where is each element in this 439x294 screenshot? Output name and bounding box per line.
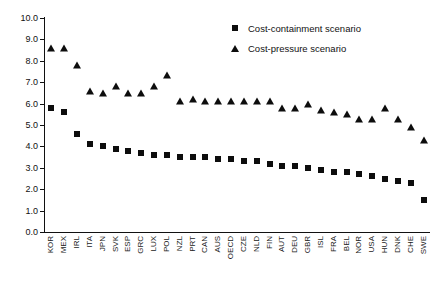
y-axis: 10.09.08.07.06.05.04.03.02.01.00.0 bbox=[0, 0, 44, 294]
legend-item-cost-containment: Cost-containment scenario bbox=[228, 20, 361, 36]
data-point bbox=[331, 169, 337, 175]
data-point bbox=[241, 158, 247, 164]
legend-label: Cost-containment scenario bbox=[248, 23, 361, 34]
y-axis-tick-label: 5.0 bbox=[25, 121, 38, 130]
data-point bbox=[382, 176, 388, 182]
x-axis-label: DEU bbox=[291, 236, 299, 253]
data-point bbox=[317, 107, 325, 114]
x-axis-label: FRA bbox=[330, 236, 338, 252]
x-axis-label: PRT bbox=[189, 236, 197, 252]
x-axis-label: LUX bbox=[150, 236, 158, 252]
data-point bbox=[381, 104, 389, 111]
x-axis-label: FIN bbox=[266, 236, 274, 249]
y-axis-tick-label: 8.0 bbox=[25, 57, 38, 66]
x-axis-label: GRC bbox=[137, 236, 145, 254]
x-axis-label: NLD bbox=[253, 236, 261, 252]
data-point bbox=[420, 136, 428, 143]
legend-item-cost-pressure: Cost-pressure scenario bbox=[228, 40, 361, 56]
x-axis-label: NOR bbox=[355, 236, 363, 254]
data-point bbox=[344, 169, 350, 175]
data-point bbox=[73, 62, 81, 69]
data-point bbox=[355, 115, 363, 122]
y-axis-tick-label: 2.0 bbox=[25, 185, 38, 194]
x-axis-label: ITA bbox=[86, 236, 94, 248]
data-point bbox=[395, 178, 401, 184]
data-point bbox=[254, 158, 260, 164]
x-axis-label: POL bbox=[163, 236, 171, 252]
data-point bbox=[214, 98, 222, 105]
scatter-chart: 10.09.08.07.06.05.04.03.02.01.00.0 KORME… bbox=[0, 0, 439, 294]
triangle-marker-icon bbox=[228, 45, 242, 52]
data-point bbox=[408, 180, 414, 186]
data-point bbox=[190, 154, 196, 160]
legend-label: Cost-pressure scenario bbox=[248, 43, 346, 54]
x-axis-label: CAN bbox=[201, 236, 209, 253]
data-point bbox=[163, 71, 171, 78]
data-point bbox=[368, 115, 376, 122]
data-point bbox=[278, 104, 286, 111]
data-point bbox=[291, 104, 299, 111]
data-point bbox=[189, 96, 197, 103]
data-point bbox=[202, 154, 208, 160]
data-point bbox=[292, 163, 298, 169]
y-axis-tick-label: 1.0 bbox=[25, 207, 38, 216]
chart-legend: Cost-containment scenario Cost-pressure … bbox=[228, 20, 361, 60]
x-axis-label: DNK bbox=[394, 236, 402, 253]
x-axis-label: NZL bbox=[176, 236, 184, 251]
data-point bbox=[215, 156, 221, 162]
y-axis-tick-label: 7.0 bbox=[25, 78, 38, 87]
data-point bbox=[177, 154, 183, 160]
data-point bbox=[113, 146, 119, 152]
x-axis-label: OECD bbox=[227, 236, 235, 259]
x-axis-label: USA bbox=[368, 236, 376, 252]
data-point bbox=[253, 98, 261, 105]
x-axis-label: CZE bbox=[240, 236, 248, 252]
data-point bbox=[99, 89, 107, 96]
data-point bbox=[138, 150, 144, 156]
data-point bbox=[87, 141, 93, 147]
y-axis-tick-label: 9.0 bbox=[25, 35, 38, 44]
data-point bbox=[266, 98, 274, 105]
data-point bbox=[305, 165, 311, 171]
y-axis-tick-label: 4.0 bbox=[25, 142, 38, 151]
data-point bbox=[100, 143, 106, 149]
data-point bbox=[176, 98, 184, 105]
x-axis-label: SWE bbox=[420, 236, 428, 254]
x-axis-line bbox=[44, 232, 430, 233]
x-axis-label: SVK bbox=[112, 236, 120, 252]
data-point bbox=[61, 109, 67, 115]
x-axis-label: HUN bbox=[381, 236, 389, 253]
data-point bbox=[125, 148, 131, 154]
data-point bbox=[112, 83, 120, 90]
x-axis-label: GBR bbox=[304, 236, 312, 253]
data-point bbox=[279, 163, 285, 169]
x-axis-label: IRL bbox=[73, 236, 81, 248]
data-point bbox=[343, 111, 351, 118]
x-axis-labels: KORMEXIRLITAJPNSVKESPGRCLUXPOLNZLPRTCANA… bbox=[45, 236, 430, 294]
data-point bbox=[369, 173, 375, 179]
data-point bbox=[124, 89, 132, 96]
data-point bbox=[201, 98, 209, 105]
data-point bbox=[394, 115, 402, 122]
y-axis-tick-label: 0.0 bbox=[25, 228, 38, 237]
y-axis-tick-label: 6.0 bbox=[25, 100, 38, 109]
x-axis-label: BEL bbox=[343, 236, 351, 251]
x-axis-label: AUT bbox=[278, 236, 286, 252]
data-point bbox=[164, 152, 170, 158]
data-point bbox=[151, 152, 157, 158]
data-point bbox=[407, 124, 415, 131]
data-point bbox=[137, 89, 145, 96]
y-axis-tick-label: 10.0 bbox=[20, 14, 38, 23]
data-point bbox=[228, 156, 234, 162]
data-point bbox=[330, 109, 338, 116]
x-axis-label: JPN bbox=[99, 236, 107, 251]
square-marker-icon bbox=[228, 25, 242, 31]
data-point bbox=[47, 44, 55, 51]
data-point bbox=[318, 167, 324, 173]
x-axis-label: CHE bbox=[407, 236, 415, 253]
x-axis-label: MEX bbox=[60, 236, 68, 253]
x-axis-label: ISL bbox=[317, 236, 325, 248]
y-axis-tick-label: 3.0 bbox=[25, 164, 38, 173]
x-axis-label: ESP bbox=[124, 236, 132, 252]
data-point bbox=[74, 131, 80, 137]
